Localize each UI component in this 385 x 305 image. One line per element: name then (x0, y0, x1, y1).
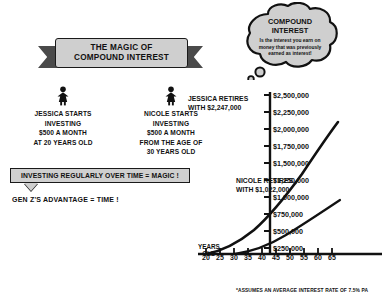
callout-text: INVESTING REGULARLY OVER TIME = MAGIC ! (10, 168, 190, 183)
compound-interest-cloud: COMPOUND INTEREST Is the interest you ea… (238, 2, 342, 80)
x-tick-label: 65 (328, 254, 336, 261)
jessica-line-2: INVESTING (7, 119, 119, 129)
annotation-nicole: NICOLE RETIRES WITH $1,022,000 (236, 176, 293, 194)
x-tick-label: 35 (244, 254, 252, 261)
annotation-nicole-line2: WITH $1,022,000 (236, 185, 293, 194)
y-tick-label: $500,000 (273, 227, 303, 236)
person-block-jessica: JESSICA STARTS INVESTING $500 A MONTH AT… (7, 86, 119, 147)
person-jessica-text: JESSICA STARTS INVESTING $500 A MONTH AT… (7, 109, 119, 147)
x-tick-label: 60 (314, 254, 322, 261)
annotation-jessica-line1: JESSICA RETIRES (188, 94, 248, 103)
cloud-definition: Is the interest you earn on money that w… (238, 38, 342, 57)
x-tick-label: 30 (230, 254, 238, 261)
y-tick-label: $2,500,000 (273, 91, 309, 100)
callout-pointer (24, 183, 38, 191)
x-axis-title: YEARS OLD (198, 243, 220, 257)
x-tick-label: 50 (286, 254, 294, 261)
y-tick-label: $2,250,000 (273, 108, 309, 117)
annotation-nicole-line1: NICOLE RETIRES (236, 176, 293, 185)
title-banner: THE MAGIC OF COMPOUND INTEREST (38, 38, 203, 72)
y-tick-label: $1,500,000 (273, 159, 309, 168)
compound-interest-chart: $2,500,000 $2,250,000 $2,000,000 $1,750,… (196, 88, 385, 278)
cloud-text: COMPOUND INTEREST Is the interest you ea… (238, 18, 342, 57)
banner-plate: THE MAGIC OF COMPOUND INTEREST (55, 38, 188, 68)
jessica-line-4: AT 20 YEARS OLD (7, 138, 119, 148)
cloud-title-line2: INTEREST (238, 27, 342, 36)
y-tick-label: $750,000 (273, 210, 303, 219)
banner-title-line1: THE MAGIC OF (74, 43, 169, 53)
y-tick-label: $250,000 (273, 244, 303, 253)
x-tick-label: 40 (258, 254, 266, 261)
genz-advantage-note: GEN Z'S ADVANTAGE = TIME ! (12, 196, 119, 203)
x-tick-label: 55 (300, 254, 308, 261)
annotation-jessica: JESSICA RETIRES WITH $2,247,000 (188, 94, 248, 112)
annotation-jessica-line2: WITH $2,247,000 (188, 103, 248, 112)
y-tick-label: $2,000,000 (273, 125, 309, 134)
x-axis-title-line1: YEARS (198, 243, 220, 250)
y-tick-label: $1,750,000 (273, 142, 309, 151)
x-tick-label: 45 (272, 254, 280, 261)
x-axis-title-line2: OLD (198, 250, 220, 257)
banner-title-line2: COMPOUND INTEREST (74, 53, 169, 63)
infographic-root: THE MAGIC OF COMPOUND INTEREST JESSICA S… (0, 0, 385, 305)
person-icon (7, 86, 119, 106)
jessica-line-1: JESSICA STARTS (7, 109, 119, 119)
callout-investing-regularly: INVESTING REGULARLY OVER TIME = MAGIC ! (10, 168, 190, 191)
jessica-line-3: $500 A MONTH (7, 128, 119, 138)
chart-footnote: *ASSUMES AN AVERAGE INTEREST RATE OF 7.5… (236, 288, 368, 293)
